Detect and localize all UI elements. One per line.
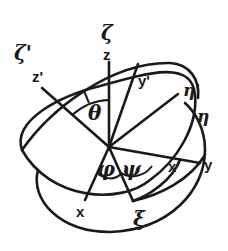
label-x-prime: x' bbox=[168, 158, 180, 175]
label-zeta-prime: ζ' bbox=[14, 41, 32, 65]
label-phi: φ bbox=[97, 157, 115, 181]
label-psi: ψ bbox=[122, 157, 142, 181]
label-z-prime: z' bbox=[32, 68, 43, 85]
label-y: y bbox=[204, 156, 213, 173]
label-y-prime: y' bbox=[138, 72, 150, 89]
label-x: x bbox=[76, 203, 85, 220]
label-eta: η bbox=[197, 106, 209, 126]
label-z: z bbox=[103, 46, 111, 63]
euler-angles-diagram: ζ z ζ' z' θ y' η' η y x' ψ φ x ξ bbox=[0, 0, 228, 251]
label-zeta: ζ bbox=[101, 21, 114, 45]
label-xi: ξ bbox=[133, 207, 146, 231]
label-eta-prime: η' bbox=[183, 80, 201, 100]
label-theta: θ bbox=[88, 101, 102, 125]
